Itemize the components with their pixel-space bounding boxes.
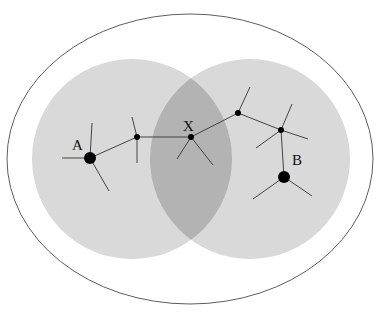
label-node-b: B [292, 152, 302, 168]
node-n3 [278, 127, 284, 133]
label-node-a: A [72, 137, 83, 153]
node-b [278, 171, 290, 183]
label-node-x: X [183, 118, 194, 134]
network-region-diagram: A X B [0, 0, 380, 312]
node-a [84, 152, 96, 164]
diagram-canvas: A X B [0, 0, 380, 312]
node-n1 [134, 134, 140, 140]
node-n2 [235, 110, 241, 116]
node-x [188, 134, 194, 140]
